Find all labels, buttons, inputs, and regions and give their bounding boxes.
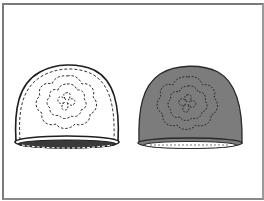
- outline-hat: [15, 65, 119, 148]
- filled-hat: [138, 66, 242, 148]
- hats-illustration: [0, 0, 264, 201]
